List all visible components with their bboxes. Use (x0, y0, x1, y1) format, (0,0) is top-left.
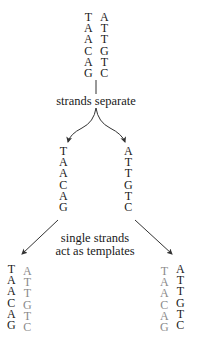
base: C (23, 322, 31, 333)
base: G (160, 322, 169, 333)
top-right-strand: A T T G T C (100, 12, 109, 79)
fork-left-arrow (68, 108, 96, 142)
base: G (7, 320, 16, 331)
separated-left-strand: T A A C A G (59, 146, 68, 213)
fork-right-arrow (96, 108, 125, 142)
bottom-left-template-strand: T A A C A G (7, 264, 16, 331)
bottom-left-new-strand: A T T G T C (23, 266, 32, 333)
base: C (176, 320, 184, 331)
bottom-right-new-strand: T A A C A G (160, 266, 169, 333)
base: C (100, 68, 108, 79)
strands-separate-label: strands separate (46, 94, 146, 109)
separated-right-strand: A T T G T C (124, 146, 133, 213)
base: G (59, 202, 68, 213)
base: G (84, 68, 93, 79)
top-left-strand: T A A C A G (84, 12, 93, 79)
bottom-right-template-strand: A T T G T C (176, 264, 185, 331)
templates-label-line2: act as templates (45, 244, 145, 259)
base: C (124, 202, 132, 213)
